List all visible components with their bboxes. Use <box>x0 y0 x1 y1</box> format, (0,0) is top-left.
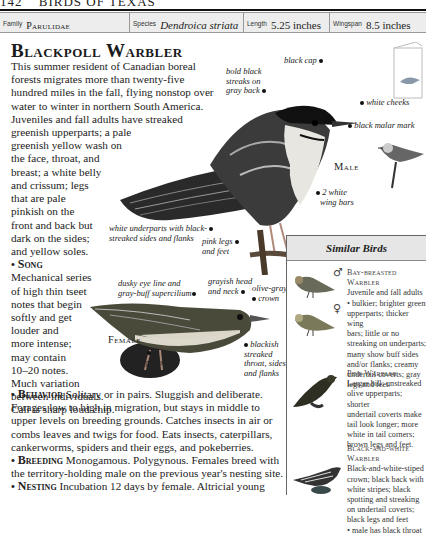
desc-line: many show buff sides <box>347 350 426 360</box>
desc-line: tail look longer; more <box>347 420 426 430</box>
label-bold-streaks: bold black streaks on gray back <box>226 67 266 96</box>
desc-line: • male has black throat <box>347 526 426 536</box>
pointer-dot-icon <box>348 124 352 128</box>
breeding-section: • Breeding Monogamous. Polygynous. Femal… <box>11 454 283 480</box>
pointer-dot-icon <box>244 343 248 347</box>
desc-line: black legs and feet <box>347 515 426 525</box>
species-label: Species <box>133 20 156 27</box>
family-cell: Family Parulidae <box>0 13 130 32</box>
desc-line: white in tail corners; <box>347 430 426 440</box>
desc-line: undertail coverts make <box>347 410 426 420</box>
desc-line: spotting and streaking <box>347 495 426 505</box>
similar-bird-name: Bay-breasted Warbler <box>347 268 426 288</box>
song-heading: Song <box>18 257 43 271</box>
pointer-dot-icon <box>319 59 323 63</box>
similar-bird-name: Pine Warbler <box>347 369 426 379</box>
bullet-icon: • <box>11 258 18 270</box>
bay-breasted-male-thumb <box>291 272 337 298</box>
page-title: Blackpoll Warbler <box>11 40 183 62</box>
length-label: Length <box>247 20 267 27</box>
pointer-dot-icon <box>262 89 266 93</box>
similar-bird-pine: Pine Warbler Larger bill; unstreaked oli… <box>287 369 426 439</box>
breeding-heading: Breeding <box>18 453 63 467</box>
nesting-heading: Nesting <box>18 479 57 493</box>
book-title: BIRDS OF TEXAS <box>39 0 156 6</box>
label-line: streaked sides and flanks <box>109 234 213 244</box>
label-line: and feet <box>202 247 239 257</box>
intro-line: This summer resident of Canadian boreal <box>11 60 221 73</box>
label-olive-crown: olive-gray crown <box>252 284 287 303</box>
wingspan-cell: Wingspan 8.5 inches <box>330 13 426 32</box>
label-eye-line: dusky eye line and gray-buff supercilium <box>118 279 196 298</box>
family-label: Family <box>3 20 22 27</box>
label-text: white <box>126 347 144 357</box>
label-line: gray back <box>226 86 266 96</box>
similar-bird-text: Black-and-white Warbler Black-and-white-… <box>347 444 426 536</box>
desc-line: Juvenile and fall adults <box>347 288 426 298</box>
bullet-icon: • <box>11 480 18 492</box>
behavior-section: • Behavior Solitary or in pairs. Sluggis… <box>11 388 283 454</box>
label-line: and neck <box>208 287 252 297</box>
similar-bird-bay-breasted: ♂ ♀ Bay-breasted Warbler Juvenile and fa… <box>287 264 426 364</box>
pointer-dot-icon <box>192 292 196 296</box>
label-text: 2 white <box>322 187 347 197</box>
desc-line: olive upperparts; shorter <box>347 389 426 409</box>
label-wing-bars: 2 white wing bars <box>316 188 354 207</box>
label-text: crown <box>258 293 279 303</box>
label-text: and neck <box>208 286 238 296</box>
length-value: 5.25 inches <box>271 19 321 31</box>
nesting-section: • Nesting Incubation 12 days by female. … <box>11 480 283 493</box>
pointer-dot-icon <box>252 297 256 301</box>
top-rule <box>0 9 426 11</box>
label-blackish-throat: blackish streaked throat, sides, and fla… <box>244 340 288 378</box>
bullet-icon: • <box>11 388 18 400</box>
similar-birds-panel: Similar Birds ♂ ♀ Bay-breasted Warbler J… <box>286 235 426 495</box>
female-symbol-icon: ♀ <box>333 302 341 315</box>
desc-line: white stripes; black <box>347 485 426 495</box>
pointer-dot-icon <box>147 351 151 355</box>
black-and-white-warbler-thumb <box>291 460 345 496</box>
label-text: black malar mark <box>354 120 414 130</box>
desc-line: Black-and-white-stiped <box>347 464 426 474</box>
female-label: Female <box>108 334 141 345</box>
label-black-cap: black cap <box>284 56 323 66</box>
label-text: pink legs <box>202 236 232 246</box>
desc-line: upperparts; thicker wing <box>347 309 426 329</box>
book-icon <box>392 42 426 100</box>
desc-line: crown; black back with <box>347 475 426 485</box>
pointer-dot-icon <box>235 240 239 244</box>
label-line: wing bars <box>316 198 354 208</box>
species-value: Dendroica striata <box>160 19 238 31</box>
similar-bird-name: Black-and-white <box>347 444 426 454</box>
family-value: Parulidae <box>26 20 70 31</box>
label-pink-legs: pink legs and feet <box>202 237 239 256</box>
pine-warbler-thumb <box>291 371 341 411</box>
label-text: gray back <box>226 85 260 95</box>
similar-birds-header: Similar Birds <box>287 236 426 261</box>
nesting-text: Incubation 12 days by female. Altricial … <box>59 480 264 492</box>
pointer-dot-icon <box>209 227 213 231</box>
wingspan-label: Wingspan <box>333 20 362 27</box>
species-cell: Species Dendroica striata <box>130 13 244 32</box>
desc-line: • bulkier; brighter green <box>347 299 426 309</box>
bay-breasted-female-thumb <box>291 310 337 336</box>
label-text: white cheeks <box>366 97 409 107</box>
label-underparts: white underparts with black- streaked si… <box>109 224 213 243</box>
desc-line: streaking on underparts; <box>347 339 426 349</box>
male-symbol-icon: ♂ <box>333 266 343 279</box>
label-line: and flanks <box>244 369 288 379</box>
label-grayish-head: grayish head and neck <box>208 277 252 296</box>
wingspan-value: 8.5 inches <box>366 19 411 31</box>
desc-line: bars; little or no <box>347 329 426 339</box>
label-black-malar: black malar mark <box>348 121 415 131</box>
male-label: Male <box>334 161 359 172</box>
running-head: 142 BIRDS OF TEXAS <box>0 0 426 6</box>
label-line: underparts <box>126 358 163 368</box>
similar-bird-text: Pine Warbler Larger bill; unstreaked oli… <box>347 369 426 451</box>
pointer-dot-icon <box>316 191 320 195</box>
label-line: gray-buff supercilium <box>118 289 196 299</box>
length-cell: Length 5.25 inches <box>244 13 330 32</box>
species-info-bar: Family Parulidae Species Dendroica stria… <box>0 12 426 33</box>
page-number: 142 <box>0 0 23 6</box>
similar-bird-name: Warbler <box>347 454 426 464</box>
